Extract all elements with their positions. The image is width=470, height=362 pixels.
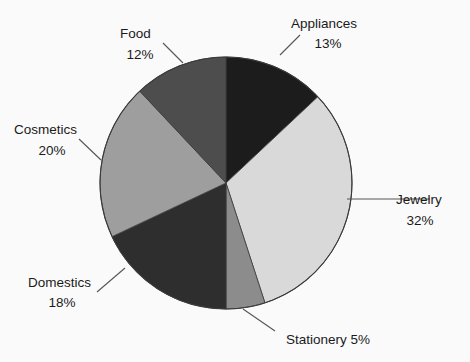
slice-label-domestics-value: 18% — [48, 295, 75, 310]
slice-label-cosmetics-value: 20% — [38, 143, 65, 158]
leader-line-food — [163, 43, 183, 63]
pie-slices-group — [100, 57, 352, 309]
leader-line-appliances — [280, 35, 300, 55]
leader-line-domestics — [97, 268, 125, 292]
slice-label-food-name: Food — [120, 26, 151, 41]
slice-label-jewelry-name: Jewelry — [396, 192, 442, 207]
pie-chart: Appliances 13% Jewelry 32% Stationery 5%… — [0, 0, 470, 362]
slice-label-cosmetics-name: Cosmetics — [14, 122, 77, 137]
slice-label-appliances-name: Appliances — [291, 16, 357, 31]
slice-label-food-value: 12% — [126, 47, 153, 62]
slice-label-appliances-value: 13% — [314, 36, 341, 51]
slice-label-stationery: Stationery 5% — [286, 332, 370, 347]
pie-chart-svg: Appliances 13% Jewelry 32% Stationery 5%… — [0, 0, 470, 362]
leader-line-cosmetics — [79, 139, 101, 160]
leader-line-stationery — [243, 309, 275, 331]
slice-label-jewelry-value: 32% — [406, 213, 433, 228]
slice-label-domestics-name: Domestics — [28, 275, 91, 290]
